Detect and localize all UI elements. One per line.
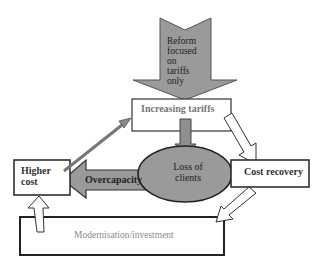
reform-label-line: only <box>167 77 197 87</box>
higher-cost-line: Higher <box>21 166 51 177</box>
modernisation-label: Modernisation/investment <box>74 231 174 241</box>
increasing-tariffs-label: Increasing tariffs <box>141 104 214 115</box>
overcapacity-label: Overcapacity <box>85 175 142 186</box>
loss-of-clients-line: clients <box>168 173 208 184</box>
higher-cost-label: Higher cost <box>21 166 51 187</box>
higher-cost-to-tariffs-line <box>64 125 122 171</box>
diagram-canvas <box>0 0 323 269</box>
loss-of-clients-line: Loss of <box>168 162 208 173</box>
cost-recovery-label: Cost recovery <box>244 167 303 178</box>
tariffs-to-cost-recovery-arrow <box>224 113 256 164</box>
cost-recovery-to-modernisation-arrow <box>216 187 256 222</box>
higher-cost-line: cost <box>21 177 51 188</box>
loss-of-clients-label: Loss of clients <box>168 162 208 183</box>
reform-label: Reform focused on tariffs only <box>167 37 197 87</box>
